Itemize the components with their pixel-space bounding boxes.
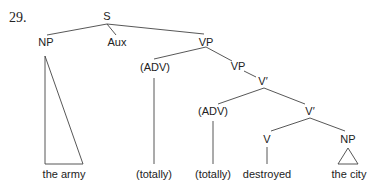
node-adv-inner: (ADV) (198, 105, 228, 117)
np-object-triangle (338, 148, 358, 164)
node-aux: Aux (108, 36, 127, 48)
edge-vp-adv (154, 47, 206, 59)
leaf-adv-outer: (totally) (136, 168, 172, 180)
example-number: 29. (9, 10, 27, 25)
edge-s-aux (107, 24, 116, 35)
node-v: V (263, 133, 271, 145)
np-triangle (45, 56, 83, 164)
node-vbar-inner: V′ (305, 105, 314, 117)
node-adv-outer: (ADV) (140, 61, 170, 73)
tree-nodes: S NP Aux VP (ADV) VP V′ (ADV) V′ V NP (38, 10, 355, 145)
edge-vbar-adv (218, 88, 264, 104)
edge-vbar-vbar (264, 88, 305, 104)
node-np-subject: NP (38, 36, 53, 48)
node-vp-outer: VP (199, 36, 214, 48)
edge-vp-vbar (244, 71, 256, 77)
edge-vbar-v (271, 118, 310, 131)
leaf-adv-inner: (totally) (195, 168, 231, 180)
node-vbar-outer: V′ (258, 75, 267, 87)
tree-leaves: the army (totally) (totally) destroyed t… (43, 168, 367, 180)
leaf-object: the city (332, 168, 367, 180)
node-vp-inner: VP (231, 60, 246, 72)
leaf-subject: the army (43, 168, 86, 180)
edge-s-np (47, 24, 107, 35)
syntax-tree: 29. S NP Aux VP (ADV) VP V′ (ADV) V′ V N… (0, 0, 378, 191)
node-np-object: NP (340, 133, 355, 145)
edge-vbar-np (310, 118, 345, 131)
node-s: S (103, 10, 110, 22)
edge-s-vp (107, 24, 204, 34)
leaf-verb: destroyed (243, 168, 291, 180)
edge-vp-vp (206, 47, 232, 61)
